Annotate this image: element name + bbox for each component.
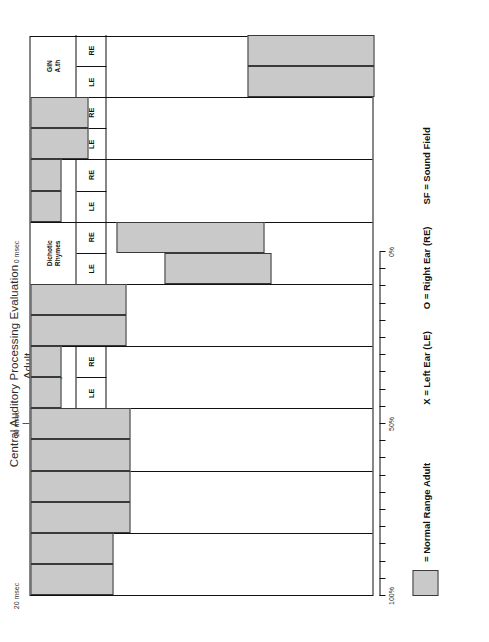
bar-lane-group-dichotic-rhymes (106, 223, 374, 284)
percent-tick (379, 457, 385, 458)
normal-range-bar-competing-sentences-re (30, 159, 61, 190)
bar-lane-group-frequency-patterns (106, 534, 374, 595)
test-column-dichotic-rhymes: DichoticRhymesLERE (30, 222, 372, 284)
percent-tick (379, 251, 385, 252)
test-column-speech-in-babble: SpeechInBabbleLERE (30, 284, 372, 346)
normal-range-bar-dichotic-rhymes-le (164, 253, 271, 284)
msec-tick-label: 0 msec (12, 241, 19, 264)
msec-tick-label: 20 msec (12, 583, 19, 609)
legend-swatch-label: = Normal Range Adult (420, 463, 431, 562)
percent-tick (379, 526, 385, 527)
normal-range-bar-dichotic-digits-re (30, 346, 61, 377)
test-label-line: Dichotic (45, 240, 53, 266)
percent-tick (379, 371, 385, 372)
bar-lane-group-gin-ath (106, 35, 374, 97)
normal-range-swatch-icon (412, 570, 438, 596)
normal-range-bar-competing-sentences-le (30, 191, 61, 222)
test-label-line: Rhymes (53, 240, 61, 266)
normal-range-bar-frequency-patterns-le (30, 564, 113, 595)
ear-label-dichotic-digits-re: RE (76, 346, 106, 377)
percent-tick (379, 595, 385, 596)
ear-label-dichotic-rhymes-le: LE (76, 253, 106, 284)
percent-tick (379, 406, 385, 407)
percent-tick (379, 543, 385, 544)
legend-key: X = Left Ear (LE) (420, 331, 431, 405)
percent-tick (379, 320, 385, 321)
bar-lane-group-dichotic-digits (106, 347, 374, 408)
legend: = Normal Range Adult X = Left Ear (LE)O … (405, 36, 445, 596)
test-label-gin-ath: GINA.th (30, 35, 76, 97)
normal-range-bar-gin-ath-le (247, 66, 374, 97)
percent-tick (379, 354, 385, 355)
normal-range-bar-compressed-speech-le (30, 128, 88, 159)
bar-lane-group-duration-patterns (106, 472, 374, 533)
test-label-line: GIN (45, 60, 53, 73)
percent-tick (379, 561, 385, 562)
percent-tick (379, 337, 385, 338)
test-label-line: A.th (53, 60, 61, 73)
legend-keys: X = Left Ear (LE)O = Right Ear (RE)SF = … (420, 127, 431, 405)
normal-range-bar-gin-ath-re (247, 35, 374, 66)
percent-tick (379, 475, 385, 476)
percent-tick (379, 492, 385, 493)
chart-canvas: Central Auditory Processing Evaluation A… (0, 0, 489, 642)
test-column-dichotic-digits: DichoticDigitsLERE (30, 346, 372, 408)
ear-label-gin-ath-le: LE (76, 66, 106, 97)
normal-range-bar-duration-patterns-le (30, 502, 130, 533)
ear-label-competing-sentences-le: LE (76, 191, 106, 222)
percent-tick-label: 0% (387, 247, 394, 257)
normal-range-bar-dichotic-rhymes-re (116, 222, 264, 253)
normal-range-bar-dichotic-digits-le (30, 377, 61, 408)
bar-lane-group-filtered-words (106, 409, 374, 470)
percent-tick (379, 440, 385, 441)
normal-range-bar-filtered-words-le (30, 439, 130, 470)
normal-range-bar-speech-in-babble-re (30, 284, 126, 315)
test-column-gin-ath: GINA.thLERE (30, 35, 372, 97)
ear-label-dichotic-digits-le: LE (76, 377, 106, 408)
plot-area: FrequencyPatternsLEREDurationPatternsLER… (29, 36, 373, 596)
normal-range-bar-duration-patterns-re (30, 471, 130, 502)
test-column-frequency-patterns: FrequencyPatternsLERE (30, 533, 372, 595)
percent-tick (379, 509, 385, 510)
test-column-competing-sentences: CompetingSentencesLERE (30, 159, 372, 221)
bar-lane-group-speech-in-babble (106, 285, 374, 346)
normal-range-bar-filtered-words-re (30, 408, 130, 439)
msec-tick (22, 423, 29, 424)
test-label-dichotic-rhymes: DichoticRhymes (30, 223, 76, 284)
legend-key: O = Right Ear (RE) (420, 227, 431, 310)
legend-key: SF = Sound Field (420, 127, 431, 204)
ear-label-competing-sentences-re: RE (76, 159, 106, 190)
normal-range-bar-compressed-speech-re (30, 97, 88, 128)
test-column-compressed-speech: CompressedSpeechLERE (30, 97, 372, 159)
bar-lane-group-competing-sentences (106, 160, 374, 221)
percent-tick (379, 389, 385, 390)
percent-tick (379, 285, 385, 286)
test-column-duration-patterns: DurationPatternsLERE (30, 471, 372, 533)
ear-label-dichotic-rhymes-re: RE (76, 222, 106, 253)
percent-tick (379, 578, 385, 579)
test-column-filtered-words: FilteredWordsLERE (30, 408, 372, 470)
normal-range-bar-speech-in-babble-le (30, 315, 126, 346)
ear-label-gin-ath-re: RE (76, 35, 106, 66)
bar-lane-group-compressed-speech (106, 98, 374, 159)
percent-tick (379, 423, 385, 424)
normal-range-bar-frequency-patterns-re (30, 533, 113, 564)
percent-tick-label: 100% (387, 587, 394, 605)
percent-axis: 100%50%0% (379, 252, 380, 596)
percent-tick-label: 50% (387, 417, 394, 431)
percent-tick (379, 303, 385, 304)
msec-tick-label: 10 msec (12, 411, 19, 437)
percent-tick (379, 268, 385, 269)
